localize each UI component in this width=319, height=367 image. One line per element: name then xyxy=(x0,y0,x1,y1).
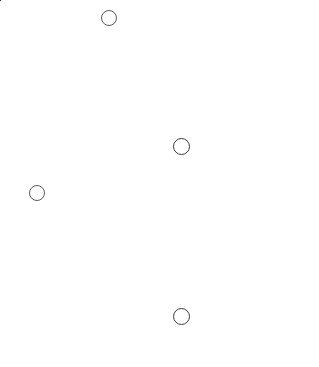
answer-marker-u xyxy=(173,308,190,325)
answer-input-u[interactable] xyxy=(193,316,263,317)
answer-input-a[interactable] xyxy=(193,146,263,147)
geometry-figures xyxy=(0,0,319,367)
answer-marker-a xyxy=(173,138,190,155)
answer-row-u xyxy=(173,301,263,331)
angle-marker-u xyxy=(29,185,45,201)
worksheet-canvas xyxy=(0,0,319,367)
angle-marker-a xyxy=(101,10,117,26)
scallop-border-icon xyxy=(0,358,319,367)
answer-row-a xyxy=(173,131,263,161)
